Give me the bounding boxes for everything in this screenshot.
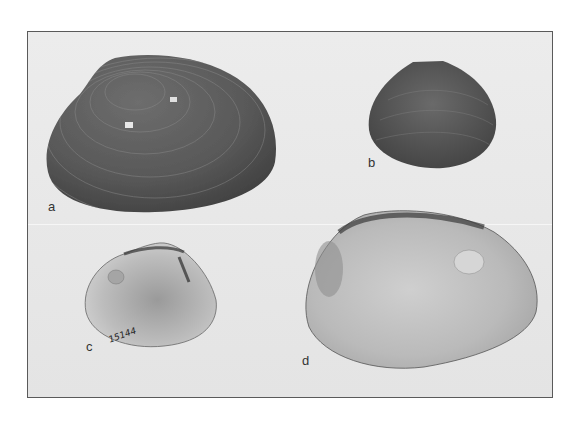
panel-label-c: c xyxy=(86,340,93,353)
panel-label-a: a xyxy=(48,200,55,213)
panel-label-b: b xyxy=(368,156,375,169)
shell-d-interior xyxy=(304,207,540,371)
shell-c-interior xyxy=(84,242,220,352)
shell-b-exterior xyxy=(368,60,498,170)
panel-label-d: d xyxy=(302,354,309,367)
shell-a-exterior xyxy=(45,52,280,214)
